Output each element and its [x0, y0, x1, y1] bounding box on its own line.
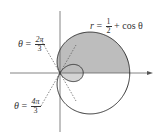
- x-axis-arrow-icon: [147, 71, 153, 75]
- equation-label: r = 12 + cos θ: [90, 18, 143, 35]
- angle-label-4pi-3: θ = 4π3: [14, 98, 41, 115]
- angle-label-2pi-3: θ = 2π3: [18, 36, 45, 53]
